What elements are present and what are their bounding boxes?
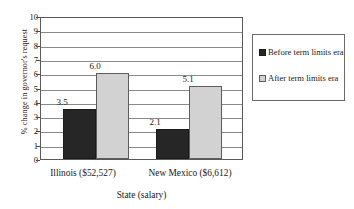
bar-illinois-after (96, 73, 129, 159)
y-tick-label: 7 (0, 56, 38, 65)
legend-item-after: After term limits era (259, 73, 344, 83)
legend-label-after: After term limits era (268, 73, 338, 83)
bar-value-label-newmexico-before: 2.1 (138, 118, 172, 127)
plot-area (40, 17, 243, 160)
y-tick-label: 3 (0, 113, 38, 122)
x-category-label-newmexico: New Mexico ($6,612) (131, 168, 249, 178)
bar-value-label-illinois-after: 6.0 (78, 62, 112, 71)
gridline (41, 32, 242, 33)
bar-chart-figure: % change in governor's request 10 9 8 7 … (0, 0, 354, 209)
bar-newmexico-after (189, 86, 222, 159)
y-tick-label: 1 (0, 141, 38, 150)
x-axis-title: State (salary) (40, 190, 243, 200)
gridline (41, 47, 242, 48)
gridline (41, 75, 242, 76)
legend-swatch-before-icon (259, 49, 266, 56)
gridline (41, 61, 242, 62)
bar-illinois-before (63, 109, 96, 159)
y-tick-label: 5 (0, 84, 38, 93)
y-tick-label: 6 (0, 70, 38, 79)
y-tick-label: 2 (0, 127, 38, 136)
legend-swatch-after-icon (259, 75, 266, 82)
y-tick-label: 8 (0, 41, 38, 50)
bar-newmexico-before (156, 129, 189, 159)
y-axis-title: % change in governor's request (20, 2, 29, 162)
y-tick-label: 0 (0, 156, 38, 165)
bar-value-label-illinois-before: 3.5 (45, 98, 79, 107)
y-tick-label: 10 (0, 13, 38, 22)
x-category-label-illinois: Illinois ($52,527) (33, 168, 133, 178)
y-tick-mark (36, 160, 40, 161)
y-tick-label: 9 (0, 27, 38, 36)
legend-item-before: Before term limits era (259, 47, 344, 57)
bar-value-label-newmexico-after: 5.1 (171, 75, 205, 84)
legend-label-before: Before term limits era (268, 47, 344, 57)
legend: Before term limits era After term limits… (252, 34, 345, 101)
y-tick-label: 4 (0, 99, 38, 108)
